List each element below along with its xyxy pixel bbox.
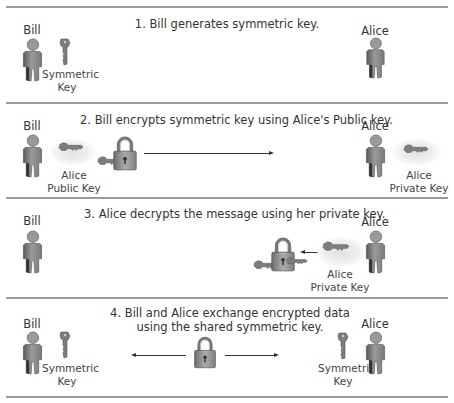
- divider: [6, 102, 448, 104]
- alice-private-key-icon: [403, 143, 429, 155]
- bill-label: Bill: [12, 119, 52, 133]
- alice-private-key-icon: [322, 240, 350, 253]
- inserted-private-key-icon: [286, 254, 308, 268]
- alice-private-key-label: Alice Private Key: [386, 169, 452, 195]
- bill-label: Bill: [12, 317, 52, 331]
- symmetric-key-label: Symmetric Key: [42, 362, 92, 388]
- step-3-title: 3. Alice decrypts the message using her …: [84, 207, 374, 221]
- key-label-line2: Private Key: [386, 182, 452, 195]
- key-label-line2: Public Key: [44, 182, 104, 195]
- key-label-line1: Symmetric: [42, 362, 92, 375]
- key-label-line1: Symmetric: [42, 68, 92, 81]
- key-label-line1: Alice: [386, 169, 452, 182]
- symmetric-key-icon: [58, 38, 72, 66]
- padlock-icon: [111, 136, 139, 172]
- alice-person-icon: [363, 230, 387, 274]
- symmetric-key-label: Symmetric Key: [42, 68, 92, 94]
- key-label-line2: Key: [42, 375, 92, 388]
- divider: [6, 297, 448, 299]
- alice-public-key-label: Alice Public Key: [44, 169, 104, 195]
- symmetric-key-icon: [58, 331, 72, 359]
- bill-label: Bill: [12, 214, 52, 228]
- alice-person-icon: [363, 134, 387, 178]
- symmetric-key-icon: [336, 332, 350, 360]
- title-line2: using the shared symmetric key.: [110, 320, 350, 334]
- step-2-title: 2. Bill encrypts symmetric key using Ali…: [80, 113, 380, 127]
- alice-label: Alice: [355, 215, 395, 229]
- alice-person-icon: [363, 331, 387, 375]
- bill-person-icon: [20, 38, 44, 82]
- alice-person-icon: [363, 37, 387, 79]
- alice-label: Alice: [355, 317, 395, 331]
- arrow-icon: [225, 355, 277, 356]
- bill-person-icon: [20, 331, 44, 375]
- key-label-line2: Private Key: [307, 281, 373, 294]
- key-label-line1: Alice: [44, 169, 104, 182]
- divider: [6, 6, 448, 8]
- bill-person-icon: [20, 230, 44, 274]
- divider: [6, 396, 448, 398]
- divider: [6, 197, 448, 199]
- alice-public-key-icon: [58, 141, 84, 153]
- step-4-title: 4. Bill and Alice exchange encrypted dat…: [110, 306, 350, 334]
- bill-label: Bill: [12, 23, 52, 37]
- arrow-icon: [144, 153, 272, 154]
- padlock-icon: [192, 335, 218, 371]
- bill-person-icon: [20, 134, 44, 178]
- step-1-title: 1. Bill generates symmetric key.: [100, 17, 354, 31]
- symmetric-key-label: Symmetric Key: [318, 362, 368, 388]
- title-line1: 4. Bill and Alice exchange encrypted dat…: [110, 306, 350, 320]
- arrow-icon: [133, 355, 186, 356]
- alice-label: Alice: [355, 24, 395, 38]
- key-label-line2: Key: [42, 81, 92, 94]
- key-label-line2: Key: [318, 375, 368, 388]
- alice-label: Alice: [355, 119, 395, 133]
- key-label-line1: Symmetric: [318, 362, 368, 375]
